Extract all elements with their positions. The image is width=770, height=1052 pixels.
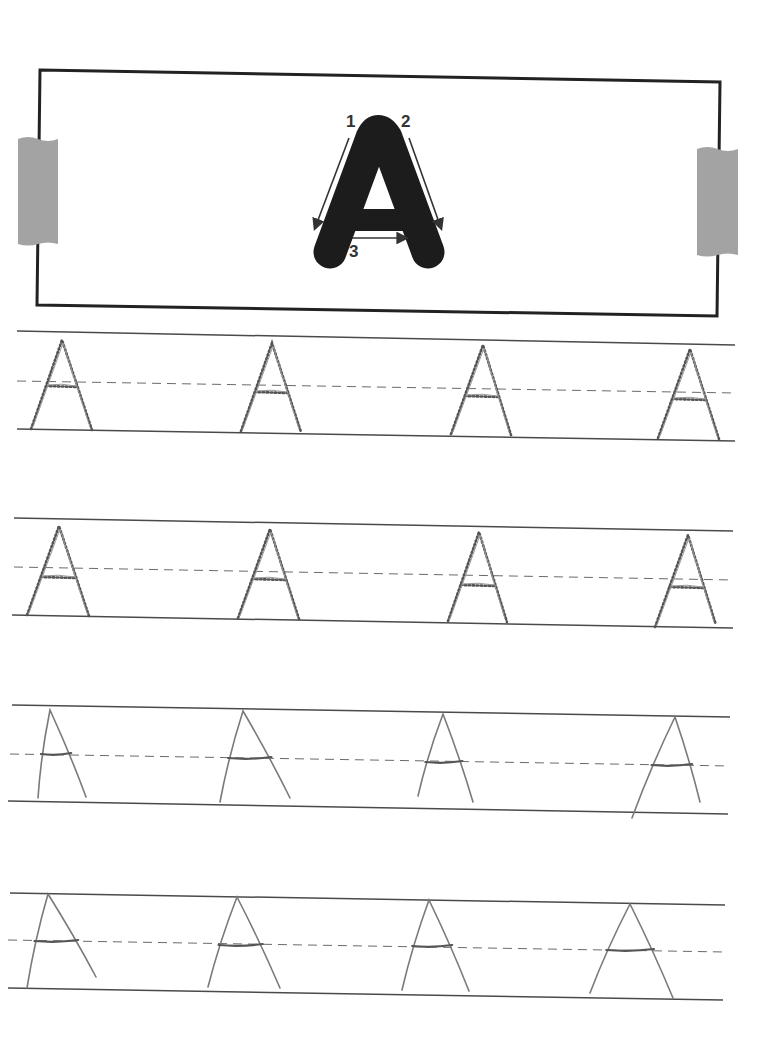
tape-left	[18, 137, 58, 246]
dashed-midline	[14, 567, 733, 580]
baseline	[12, 615, 733, 628]
baseline	[8, 801, 728, 814]
top-line	[17, 331, 735, 345]
tape-right	[697, 147, 738, 257]
dotted-guide	[27, 526, 89, 616]
dotted-guide	[448, 532, 507, 622]
stroke-number-3: 3	[349, 242, 358, 261]
dashed-midline	[10, 754, 730, 766]
baseline	[8, 988, 723, 1000]
pencil-crossbar	[606, 949, 654, 951]
baseline	[17, 429, 735, 441]
pencil-trace	[453, 348, 509, 432]
practice-row-3	[8, 705, 730, 818]
practice-letter-a-3	[451, 345, 511, 435]
practice-letter-a-2	[220, 711, 290, 802]
practice-letter-a-1	[38, 710, 86, 798]
model-letter-box	[37, 70, 720, 316]
dotted-guide	[31, 340, 92, 430]
pencil-stroke	[418, 714, 473, 802]
practice-letter-a-4	[655, 535, 716, 627]
pencil-crossbar	[652, 764, 693, 766]
pencil-crossbar	[412, 945, 452, 947]
handwriting-rows	[8, 331, 735, 1000]
dotted-guide	[238, 529, 299, 619]
dotted-guide	[451, 345, 511, 435]
pencil-trace	[657, 538, 714, 625]
pencil-trace	[29, 529, 87, 613]
practice-letter-a-3	[448, 532, 507, 622]
practice-letter-a-2	[241, 343, 301, 432]
practice-letter-a-1	[31, 340, 92, 430]
dotted-guide	[658, 349, 719, 439]
stroke-number-1: 1	[346, 112, 355, 131]
pencil-trace	[450, 535, 505, 619]
dotted-guide	[241, 343, 301, 432]
practice-row-1	[17, 331, 735, 441]
pencil-stroke	[220, 711, 290, 802]
practice-letter-a-2	[208, 897, 280, 988]
letter-a-crossbar	[346, 209, 414, 231]
top-line	[12, 705, 730, 717]
practice-row-4	[8, 893, 725, 1000]
practice-letter-a-3	[418, 714, 473, 802]
pencil-trace	[33, 343, 90, 427]
pencil-crossbar	[228, 757, 271, 759]
box-border	[37, 70, 720, 316]
pencil-trace	[660, 352, 717, 436]
dashed-midline	[17, 381, 735, 393]
stroke-number-2: 2	[401, 112, 410, 131]
worksheet: 1 2 3	[0, 0, 770, 1052]
practice-row-2	[12, 518, 733, 628]
practice-letter-a-2	[238, 529, 299, 619]
practice-letter-a-4	[658, 349, 719, 439]
practice-letter-a-3	[402, 900, 469, 991]
pencil-trace	[243, 346, 299, 429]
practice-letter-a-1	[27, 526, 89, 616]
top-line	[14, 518, 733, 531]
pencil-stroke	[208, 897, 280, 988]
practice-letter-a-4	[632, 717, 700, 818]
top-line	[10, 893, 725, 905]
pencil-trace	[240, 532, 297, 616]
pencil-stroke	[632, 717, 700, 818]
pencil-crossbar	[41, 753, 71, 755]
